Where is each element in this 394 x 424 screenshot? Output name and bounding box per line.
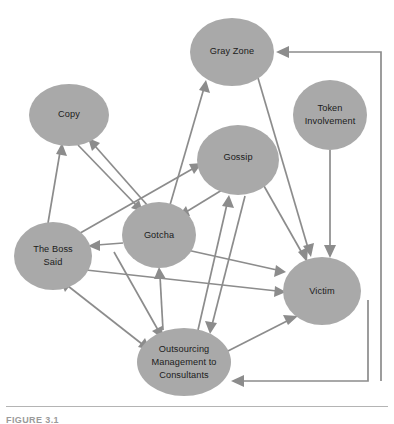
caption-divider <box>6 406 388 407</box>
node-outsourcing-label-line3: Consultants <box>159 370 209 380</box>
node-token-involvement-label-line1: Token <box>317 103 342 113</box>
node-outsourcing[interactable]: Outsourcing Management to Consultants <box>137 328 231 396</box>
node-token-involvement[interactable]: Token Involvement <box>293 80 367 150</box>
node-gray-zone-label: Gray Zone <box>210 46 254 56</box>
node-gossip-label: Gossip <box>223 152 252 162</box>
node-gray-zone[interactable]: Gray Zone <box>190 18 274 86</box>
node-victim-label: Victim <box>309 286 335 296</box>
node-the-boss-said-shape <box>14 222 92 290</box>
node-gossip[interactable]: Gossip <box>197 125 279 195</box>
edge-outsourcing-to-victim <box>224 315 298 353</box>
node-token-involvement-shape <box>293 80 367 150</box>
edge-gotcha-to-victim <box>187 250 286 277</box>
edge-token-to-victim <box>324 150 336 258</box>
node-outsourcing-label-line1: Outsourcing <box>159 344 210 354</box>
relationship-diagram: Gray Zone Token Involvement Copy Gossip <box>0 0 394 424</box>
node-gotcha[interactable]: Gotcha <box>122 202 196 268</box>
node-the-boss-said-label-line2: Said <box>44 257 63 267</box>
node-copy-label: Copy <box>58 109 80 119</box>
node-victim[interactable]: Victim <box>283 257 361 325</box>
node-the-boss-said[interactable]: The Boss Said <box>14 222 92 290</box>
figure-caption: FIGURE 3.1 <box>6 414 226 424</box>
edge-outsourcing-to-gotcha <box>154 267 166 330</box>
node-layer: Gray Zone Token Involvement Copy Gossip <box>14 18 367 396</box>
figure-container: Gray Zone Token Involvement Copy Gossip <box>0 0 394 424</box>
edge-boss-to-victim <box>86 270 286 297</box>
node-gotcha-label: Gotcha <box>144 230 175 240</box>
node-the-boss-said-label-line1: The Boss <box>33 244 73 254</box>
edge-gotcha-to-boss <box>88 240 123 251</box>
node-outsourcing-label-line2: Management to <box>151 357 216 367</box>
node-token-involvement-label-line2: Involvement <box>305 116 356 126</box>
node-copy[interactable]: Copy <box>29 84 109 146</box>
edge-gossip-to-outsourcing <box>205 196 245 334</box>
edge-gotcha-to-copy <box>88 138 148 206</box>
edge-boss-to-copy <box>48 143 67 223</box>
